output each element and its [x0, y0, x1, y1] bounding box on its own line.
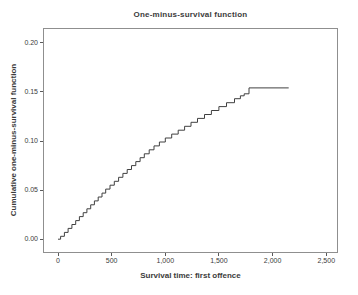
one-minus-survival-curve	[58, 88, 289, 239]
survival-chart: One-minus-survival function Cumulative o…	[0, 0, 358, 295]
step-curve-canvas	[44, 29, 337, 252]
y-tick-label: 0.00	[0, 235, 38, 242]
x-axis-label: Survival time: first offence	[43, 271, 338, 280]
x-tick-label: 0	[41, 257, 75, 264]
x-tick-mark	[326, 253, 327, 256]
x-tick-mark	[58, 253, 59, 256]
plot-area	[43, 28, 338, 253]
x-tick-label: 1,000	[148, 257, 182, 264]
chart-title: One-minus-survival function	[43, 10, 338, 19]
x-tick-label: 2,500	[309, 257, 343, 264]
y-tick-mark	[40, 190, 43, 191]
y-tick-mark	[40, 239, 43, 240]
y-tick-label: 0.05	[0, 186, 38, 193]
x-tick-mark	[218, 253, 219, 256]
x-tick-label: 2,000	[256, 257, 290, 264]
x-tick-mark	[111, 253, 112, 256]
x-tick-mark	[272, 253, 273, 256]
y-tick-mark	[40, 141, 43, 142]
y-tick-label: 0.10	[0, 137, 38, 144]
y-tick-label: 0.15	[0, 88, 38, 95]
y-tick-label: 0.20	[0, 39, 38, 46]
y-tick-mark	[40, 91, 43, 92]
x-tick-label: 500	[95, 257, 129, 264]
y-tick-mark	[40, 42, 43, 43]
x-tick-label: 1,500	[202, 257, 236, 264]
x-tick-mark	[165, 253, 166, 256]
